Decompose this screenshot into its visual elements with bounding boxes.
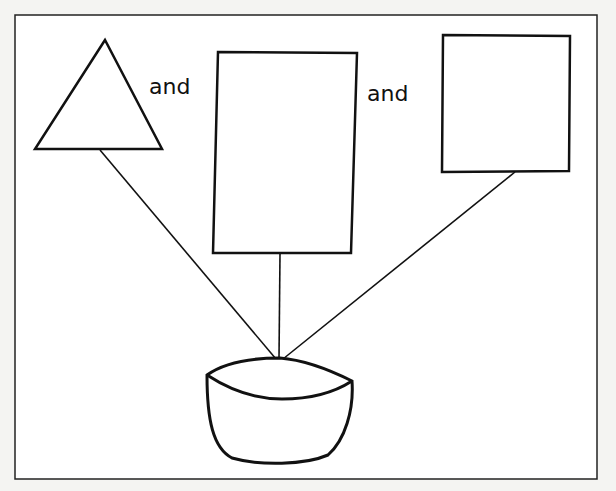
connector-line-rectangle	[279, 254, 280, 358]
and-label-2: and	[367, 81, 408, 106]
square-shape	[442, 35, 570, 172]
and-label-1: and	[149, 74, 190, 99]
diagram-canvas: and and	[0, 0, 616, 491]
tall-rectangle-shape	[213, 52, 357, 253]
bowl-shape	[207, 358, 352, 463]
